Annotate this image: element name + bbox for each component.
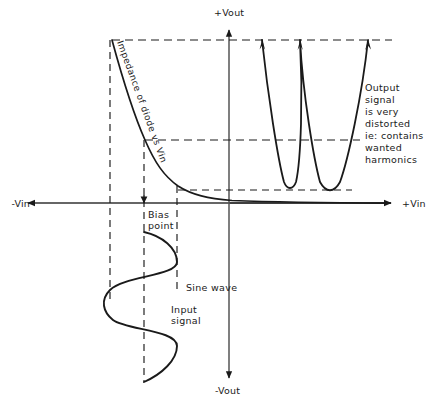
output-note-line-1: Output — [365, 82, 400, 93]
vin-positive-label: +Vin — [402, 198, 426, 209]
input-signal-label: Input signal — [171, 304, 201, 326]
diagram-svg: Impedance of diode vs Vin +Vout -Vout +V… — [0, 0, 446, 407]
curve-label-group: Impedance of diode vs Vin — [115, 39, 169, 164]
output-note-line-5: ie: contains — [365, 130, 424, 141]
impedance-curve-label: Impedance of diode vs Vin — [115, 39, 169, 164]
output-note-line-4: distorted — [365, 118, 410, 129]
bias-point-label-line-1: Bias — [148, 209, 169, 220]
vout-negative-label: -Vout — [215, 385, 240, 396]
bias-point-label-line-2: point — [148, 220, 174, 231]
output-distorted-waveform — [262, 40, 368, 190]
output-note-line-2: signal — [365, 94, 395, 105]
output-note-line-7: harmonics — [365, 154, 417, 165]
output-note-line-6: wanted — [365, 142, 402, 153]
vin-negative-label: -Vin — [11, 198, 30, 209]
output-note-block: Output signal is very distorted ie: cont… — [365, 82, 424, 165]
input-signal-label-line-2: signal — [171, 315, 201, 326]
input-signal-label-line-1: Input — [171, 304, 197, 315]
sine-wave-label: Sine wave — [186, 282, 237, 293]
output-note-line-3: is very — [365, 106, 399, 117]
bias-point-label: Bias point — [148, 209, 174, 231]
bias-point-marker — [141, 195, 148, 203]
vout-positive-label: +Vout — [214, 7, 244, 18]
axis-group — [28, 30, 391, 378]
input-sine-wave — [104, 232, 177, 382]
output-peak-arrow-markers — [260, 39, 371, 50]
diagram-canvas: Impedance of diode vs Vin +Vout -Vout +V… — [0, 0, 446, 407]
